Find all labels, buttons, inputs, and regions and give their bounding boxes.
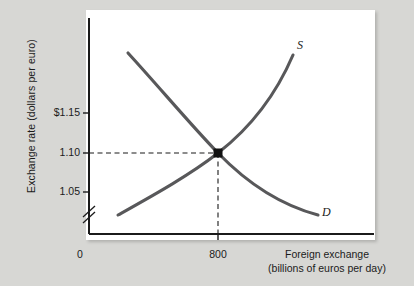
x-axis-title-line2: (billions of euros per day)	[240, 261, 414, 275]
plot-svg	[0, 0, 414, 286]
y-tick-label-110: 1.10	[60, 146, 80, 158]
y-tick-label-105-wrap: 1.05	[0, 185, 80, 199]
foreign-exchange-market-figure: Exchange rate (dollars per euro) $1.15 1…	[0, 0, 414, 286]
y-tick-label-105: 1.05	[60, 185, 80, 197]
x-axis-title: Foreign exchange (billions of euros per …	[240, 247, 414, 275]
x-axis-title-line1: Foreign exchange	[240, 247, 414, 261]
y-tick-label-110-wrap: 1.10	[0, 146, 80, 160]
origin-label: 0	[77, 248, 83, 260]
equilibrium-point-marker	[214, 149, 223, 158]
y-tick-label-115-wrap: $1.15	[0, 106, 80, 120]
demand-curve	[128, 53, 318, 215]
y-tick-label-115: $1.15	[54, 106, 80, 118]
demand-curve-label: D	[322, 205, 331, 220]
supply-curve-label: S	[297, 38, 303, 53]
x-tick-label-800: 800	[198, 248, 238, 260]
